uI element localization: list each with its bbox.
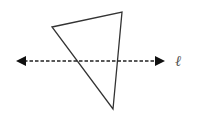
left-arrowhead-icon	[16, 56, 26, 66]
line-label: ℓ	[175, 52, 181, 70]
geometry-diagram: ℓ	[0, 0, 198, 123]
right-arrowhead-icon	[155, 56, 165, 66]
